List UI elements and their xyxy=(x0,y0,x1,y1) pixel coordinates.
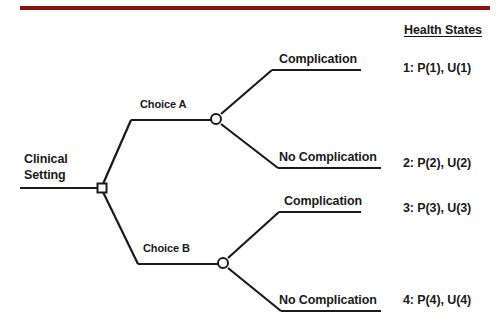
health-state-2: 2: P(2), U(2) xyxy=(403,156,471,171)
chance-node-circle-a xyxy=(211,114,221,124)
branch-b-diagonal xyxy=(103,192,138,264)
choice-a-label: Choice A xyxy=(140,98,186,111)
outcome-label-no-complication-b: No Complication xyxy=(279,293,377,308)
outcome-1-diagonal xyxy=(221,70,272,114)
health-state-1: 1: P(1), U(1) xyxy=(403,61,471,76)
outcome-label-no-complication-a: No Complication xyxy=(279,150,377,165)
root-label-line2: Setting xyxy=(24,168,66,183)
root-label-line1: Clinical xyxy=(24,152,68,167)
branch-a-diagonal xyxy=(103,120,131,184)
decision-tree-figure: Health States Clinical Setting Choice A … xyxy=(0,0,503,324)
chance-node-circle-b xyxy=(218,258,228,268)
outcome-label-complication-a: Complication xyxy=(279,52,357,67)
outcome-4-diagonal xyxy=(228,268,281,311)
outcome-3-diagonal xyxy=(228,212,279,258)
outcome-label-complication-b: Complication xyxy=(284,194,362,209)
health-states-header: Health States xyxy=(404,23,482,38)
health-state-4: 4: P(4), U(4) xyxy=(403,293,471,308)
decision-node-square xyxy=(98,184,107,193)
health-state-3: 3: P(3), U(3) xyxy=(403,201,471,216)
outcome-2-diagonal xyxy=(221,124,278,168)
choice-b-label: Choice B xyxy=(143,242,190,255)
